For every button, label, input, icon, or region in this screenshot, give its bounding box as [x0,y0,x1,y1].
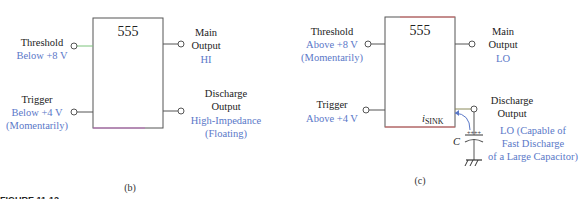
ground-icon [465,160,482,166]
trigger-label: Trigger [316,99,348,110]
discharge-output-state-line1: LO (Capable of [500,125,566,137]
main-output-label-line2: Output [488,39,517,50]
main-output-pin-icon [469,41,475,47]
discharge-output-state-line1: High-Impedance [191,115,262,126]
panel-caption: (c) [414,175,425,187]
trigger-pin-icon [363,107,369,113]
panel-b: 555 Threshold Below +8 V Trigger Below +… [6,18,262,194]
panel-caption: (b) [124,182,136,194]
chip-label: 555 [410,23,431,38]
trigger-state-line2: (Momentarily) [6,120,68,132]
discharge-output-state-line2: Fast Discharge [502,138,565,149]
sink-current-label: iSINK [422,113,444,126]
threshold-label: Threshold [21,37,64,48]
trigger-state-line1: Below +4 V [11,107,63,118]
chip-label: 555 [118,24,139,39]
threshold-state-line2: (Momentarily) [301,52,363,64]
threshold-pin-icon [71,43,77,49]
threshold-state-line1: Above +8 V [306,39,358,50]
trigger-label: Trigger [21,94,53,105]
discharge-output-label-line2: Output [497,108,526,119]
main-output-pin-icon [178,41,184,47]
panel-c: 555 Threshold Above +8 V (Momentarily) T… [301,17,578,187]
main-output-label-line1: Main [492,26,515,37]
discharge-output-label-line1: Discharge [205,88,248,99]
sink-current-arrow-icon [455,113,470,130]
sink-arrowhead-icon [455,110,459,116]
discharge-output-label-line2: Output [211,101,240,112]
discharge-output-label-line1: Discharge [491,95,534,106]
trigger-pin-icon [71,109,77,115]
discharge-output-state-line2: (Floating) [205,128,247,140]
main-output-state: HI [200,54,212,65]
capacitor-label: C [453,136,461,147]
main-output-label-line1: Main [195,27,218,38]
discharge-output-state-line3: of a Large Capacitor) [488,151,578,163]
discharge-output-pin-icon [471,106,477,112]
discharge-output-pin-icon [178,108,184,114]
threshold-pin-icon [365,41,371,47]
diagram-canvas: 555 Threshold Below +8 V Trigger Below +… [0,0,585,199]
threshold-label: Threshold [311,26,354,37]
trigger-state: Above +4 V [306,113,358,124]
threshold-state: Below +8 V [16,50,68,61]
figure-label: FIGURE 11-12 [0,195,59,199]
main-output-state: LO [496,53,510,64]
main-output-label-line2: Output [191,40,220,51]
capacitor-polarity: ++++ [467,129,482,135]
